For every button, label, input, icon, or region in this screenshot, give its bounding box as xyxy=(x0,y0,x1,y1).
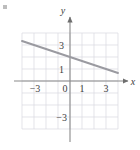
x-tick-label-1: 1 xyxy=(80,83,85,94)
origin-label: 0 xyxy=(63,83,68,94)
coordinate-plane-figure: y x 0 −3 1 3 3 1 −3 xyxy=(0,0,140,150)
y-axis-label: y xyxy=(60,5,66,16)
y-tick-label-neg3: −3 xyxy=(56,112,67,123)
x-tick-label-neg3: −3 xyxy=(30,83,41,94)
y-tick-label-3: 3 xyxy=(59,40,64,51)
graph-canvas: y x 0 −3 1 3 3 1 −3 xyxy=(0,0,140,150)
x-tick-label-3: 3 xyxy=(104,83,109,94)
x-axis-label: x xyxy=(130,76,136,87)
y-tick-label-1: 1 xyxy=(59,64,64,75)
